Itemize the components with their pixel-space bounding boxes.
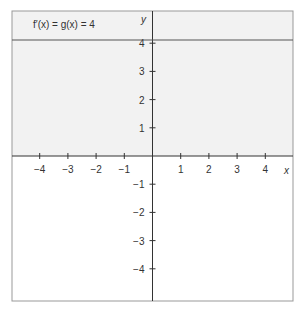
function-annotation: f′(x) = g(x) = 4	[33, 19, 95, 30]
y-axis-label: y	[140, 14, 147, 25]
y-tick-label: −3	[133, 236, 145, 247]
x-tick-label: 1	[178, 164, 184, 175]
x-tick-label: −4	[34, 164, 46, 175]
x-tick-label: −2	[90, 164, 102, 175]
y-tick-label: 3	[139, 66, 145, 77]
x-tick-label: 4	[263, 164, 269, 175]
y-tick-label: −2	[133, 207, 145, 218]
x-tick-label: 2	[206, 164, 212, 175]
function-graph: −4−3−2−11234−4−3−2−11234 f′(x) = g(x) = …	[0, 0, 302, 318]
y-tick-label: −1	[133, 179, 145, 190]
x-axis-label: x	[283, 165, 290, 176]
y-tick-label: −4	[133, 264, 145, 275]
y-tick-label: 2	[139, 95, 145, 106]
x-tick-label: −1	[119, 164, 131, 175]
x-tick-label: −3	[62, 164, 74, 175]
y-tick-label: 1	[139, 123, 145, 134]
x-tick-label: 3	[234, 164, 240, 175]
